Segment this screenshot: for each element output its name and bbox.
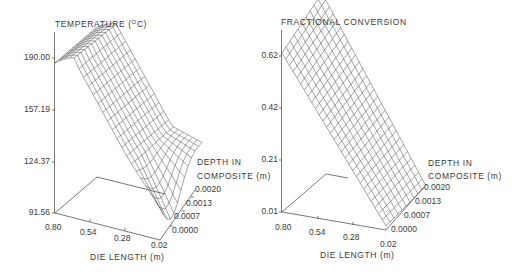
conversion-plot-canvas: [258, 0, 516, 272]
temperature-wireframe-surface: [55, 24, 202, 220]
x-tick-0.54: 0.54: [80, 227, 97, 237]
z-tick-0.62: 0.62: [238, 50, 278, 60]
conversion-surface-chart: FRACTIONAL CONVERSION 0.62 0.42 0.21 0.0…: [258, 0, 516, 272]
z-tick-157: 157.19: [10, 104, 50, 114]
x-tick-0.02: 0.02: [151, 240, 168, 250]
x-tick-0.80: 0.80: [275, 222, 292, 232]
y-tick-0.0020: 0.0020: [424, 182, 450, 192]
z-tick-190: 190.00: [10, 52, 50, 62]
y-tick-0.0013: 0.0013: [415, 196, 441, 206]
z-tick-0.42: 0.42: [238, 102, 278, 112]
y-tick-0.0000: 0.0000: [391, 224, 417, 234]
temperature-plot-canvas: [0, 0, 258, 272]
depth-axis-label-line1: DEPTH IN: [197, 157, 241, 167]
temperature-surface-chart: TEMPERATURE (OC) 190.00 157.19 124.37 91…: [0, 0, 258, 272]
y-tick-0.0007: 0.0007: [404, 210, 430, 220]
z-tick-0.21: 0.21: [238, 154, 278, 164]
x-tick-0.28: 0.28: [114, 233, 131, 243]
conversion-axis-title: FRACTIONAL CONVERSION: [281, 17, 407, 27]
x-tick-0.54: 0.54: [309, 227, 326, 237]
y-tick-0.0013: 0.0013: [186, 198, 212, 208]
x-tick-0.28: 0.28: [343, 232, 360, 242]
depth-axis-label-line2: COMPOSITE (m): [428, 171, 502, 181]
x-axis-label: DIE LENGTH (m): [90, 252, 165, 262]
y-tick-0.0020: 0.0020: [195, 184, 221, 194]
z-tick-124: 124.37: [10, 156, 50, 166]
z-tick-0.01: 0.01: [238, 206, 278, 216]
z-tick-91: 91.56: [10, 207, 50, 217]
depth-axis-label-line1: DEPTH IN: [428, 158, 472, 168]
x-tick-0.80: 0.80: [45, 222, 62, 232]
y-tick-0.0000: 0.0000: [172, 225, 198, 235]
y-tick-0.0007: 0.0007: [174, 211, 200, 221]
temperature-axes: [52, 32, 195, 240]
x-axis-label: DIE LENGTH (m): [320, 250, 395, 260]
conversion-wireframe-surface: [282, 0, 426, 226]
temperature-axis-title: TEMPERATURE (OC): [55, 19, 147, 29]
x-tick-0.02: 0.02: [380, 239, 397, 249]
